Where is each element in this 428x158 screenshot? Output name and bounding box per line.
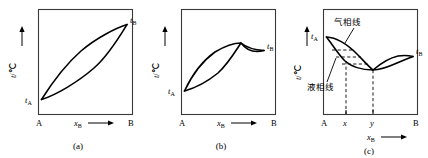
- caption-b: (b): [216, 141, 227, 151]
- caption-c: (c): [364, 146, 374, 156]
- y-axis-arrow-c: [304, 26, 309, 46]
- caption-a: (a): [73, 141, 83, 151]
- x-axis-arrow-c: [381, 134, 407, 139]
- endpoint-B-a: B: [128, 118, 134, 128]
- tick-label-x: x: [342, 118, 347, 128]
- x-axis-label-b: xB: [216, 118, 225, 129]
- endpoint-A-a: A: [36, 118, 43, 128]
- phase-diagram-figure: t/℃ tA tB A B xB: [0, 0, 428, 158]
- vapor-line-label: 气相线: [334, 17, 361, 27]
- panel-b: t/℃ tA tB A B xB (b): [143, 0, 286, 158]
- svg-text:t/℃: t/℃: [8, 63, 18, 78]
- svg-text:t/℃: t/℃: [151, 63, 161, 78]
- tick-label-y: y: [369, 118, 374, 128]
- endpoint-B-c: B: [413, 118, 419, 128]
- y-axis-unit-c: /℃: [293, 65, 303, 77]
- y-axis-unit-a: /℃: [8, 63, 18, 75]
- y-axis-arrow-b: [162, 26, 167, 46]
- panel-c: t/℃ 气相线 液相线 tA: [285, 0, 428, 158]
- endpoint-B-b: B: [271, 118, 277, 128]
- svg-text:t/℃: t/℃: [293, 65, 303, 80]
- endpoint-A-c: A: [321, 118, 328, 128]
- x-axis-label-a: xB: [73, 118, 82, 129]
- y-axis-label-b: t/℃: [151, 63, 161, 78]
- y-axis-label-c: t/℃: [293, 65, 303, 80]
- liquid-line-label: 液相线: [307, 82, 334, 92]
- label-tB-c: tB: [416, 46, 422, 57]
- label-tA-b: tA: [168, 86, 175, 97]
- label-tA-c: tA: [311, 31, 318, 42]
- y-axis-arrow-a: [19, 26, 24, 46]
- y-axis-label-a: t/℃: [8, 63, 18, 78]
- panel-a: t/℃ tA tB A B xB: [0, 0, 143, 158]
- label-tB-a: tB: [130, 15, 136, 26]
- x-axis-label-c: xB: [366, 132, 375, 143]
- x-axis-arrow-b: [231, 120, 257, 125]
- x-axis-arrow-a: [88, 120, 114, 125]
- endpoint-A-b: A: [179, 118, 186, 128]
- y-axis-unit-b: /℃: [151, 63, 161, 75]
- plot-frame-a: [39, 10, 133, 115]
- label-tA-a: tA: [25, 95, 32, 106]
